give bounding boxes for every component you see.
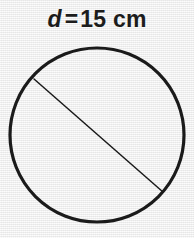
- circle-diagram-svg: [0, 0, 194, 238]
- geometry-figure: d=15 cm: [0, 0, 194, 238]
- diameter-line: [34, 79, 163, 192]
